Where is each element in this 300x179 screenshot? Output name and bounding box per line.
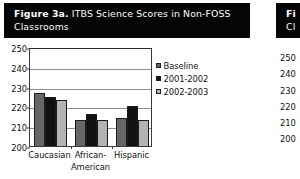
- bar: [138, 120, 149, 146]
- legend-swatch-icon: [156, 63, 161, 68]
- partial-y-axis-labels: 250240230220210200: [280, 50, 300, 148]
- partial-figure-caption: Cl: [286, 21, 295, 32]
- partial-figure-label: Fi: [286, 8, 296, 19]
- legend-item: Baseline: [156, 60, 234, 72]
- partial-y-tick-label: 240: [280, 66, 300, 82]
- figure-3b-partial-panel: Fi Cl 250240230220210200: [272, 0, 300, 179]
- y-tick-label: 250: [11, 44, 27, 54]
- legend-label: 2002-2003: [164, 87, 209, 97]
- legend-item: 2002-2003: [156, 86, 234, 98]
- x-tick-mark: [112, 146, 113, 149]
- figure-title-bar: Figure 3a. ITBS Science Scores in Non-FO…: [4, 3, 250, 38]
- partial-y-tick-label: 220: [280, 99, 300, 115]
- partial-y-tick-label: 200: [280, 131, 300, 147]
- legend-label: 2001-2002: [164, 74, 209, 84]
- bar: [75, 120, 86, 146]
- bar-group: [71, 49, 112, 146]
- bar-group: [30, 49, 71, 146]
- y-tick-label: 230: [11, 84, 27, 94]
- bar: [86, 114, 97, 146]
- bar: [56, 100, 67, 146]
- bar-group: [112, 49, 153, 146]
- x-axis-labels: CaucasianAfrican-AmericanHispanic: [29, 150, 152, 178]
- y-tick-mark: [27, 148, 30, 149]
- bar: [45, 97, 56, 147]
- partial-y-tick-label: 230: [280, 83, 300, 99]
- bar: [116, 118, 127, 146]
- bar: [97, 120, 108, 146]
- figure-3a-panel: Figure 3a. ITBS Science Scores in Non-FO…: [0, 0, 256, 179]
- bar: [34, 93, 45, 146]
- bars-layer: [30, 49, 151, 146]
- partial-figure-title-bar: Fi Cl: [276, 3, 300, 38]
- legend-label: Baseline: [164, 61, 199, 71]
- bar: [127, 106, 138, 146]
- legend-swatch-icon: [156, 76, 161, 81]
- chart-area: 200210220230240250 CaucasianAfrican-Amer…: [0, 40, 256, 179]
- legend-item: 2001-2002: [156, 73, 234, 85]
- plot-frame: 200210220230240250: [29, 48, 152, 147]
- x-tick-mark: [71, 146, 72, 149]
- figure-label: Figure 3a.: [14, 8, 69, 19]
- y-tick-label: 210: [11, 123, 27, 133]
- legend-swatch-icon: [156, 89, 161, 94]
- x-axis-label: Hispanic: [103, 150, 160, 162]
- y-tick-label: 220: [11, 103, 27, 113]
- partial-y-tick-label: 210: [280, 115, 300, 131]
- y-tick-label: 240: [11, 64, 27, 74]
- partial-y-tick-label: 250: [280, 50, 300, 66]
- chart-legend: Baseline 2001-2002 2002-2003: [156, 60, 234, 99]
